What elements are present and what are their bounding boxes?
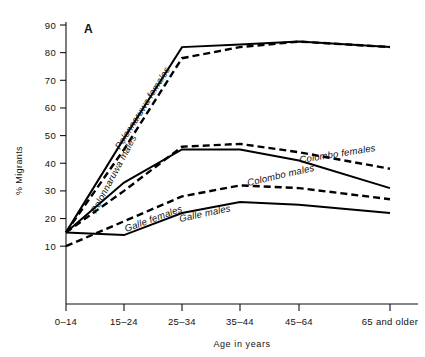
figure-panel: 102030405060708090 0–1415–2425–3435–4445… bbox=[0, 0, 425, 357]
curve-label-polonnaruwa-females: Polonnaruwa females bbox=[112, 64, 172, 151]
panel-letter: A bbox=[84, 22, 93, 36]
x-tick-label: 0–14 bbox=[55, 316, 77, 327]
y-tick-label: 40 bbox=[45, 158, 56, 169]
y-tick-label: 90 bbox=[45, 20, 56, 31]
x-axis-tick-labels: 0–1415–2425–3435–4445–6465 and older bbox=[55, 316, 418, 327]
x-tick-label: 65 and older bbox=[362, 316, 418, 327]
x-axis-title: Age in years bbox=[213, 339, 270, 349]
y-tick-label: 20 bbox=[45, 213, 56, 224]
y-tick-label: 50 bbox=[45, 130, 56, 141]
migration-line-chart: 102030405060708090 0–1415–2425–3435–4445… bbox=[0, 0, 425, 357]
x-tick-label: 35–44 bbox=[226, 316, 254, 327]
curve-label-galle-males: Galle males bbox=[178, 202, 232, 224]
y-axis-tick-labels: 102030405060708090 bbox=[45, 20, 56, 252]
y-tick-label: 60 bbox=[45, 102, 56, 113]
y-axis-ticks bbox=[60, 25, 66, 246]
x-tick-label: 15–24 bbox=[110, 316, 138, 327]
y-tick-label: 70 bbox=[45, 75, 56, 86]
x-tick-label: 25–34 bbox=[168, 316, 196, 327]
y-tick-label: 30 bbox=[45, 185, 56, 196]
x-axis-ticks bbox=[66, 304, 390, 311]
y-axis-title: % Migrants bbox=[14, 146, 24, 195]
curve-label-colombo-males: Colombo males bbox=[246, 162, 315, 188]
x-tick-label: 45–64 bbox=[285, 316, 313, 327]
series-galle-females bbox=[66, 185, 390, 246]
y-tick-label: 80 bbox=[45, 47, 56, 58]
y-tick-label: 10 bbox=[45, 241, 56, 252]
